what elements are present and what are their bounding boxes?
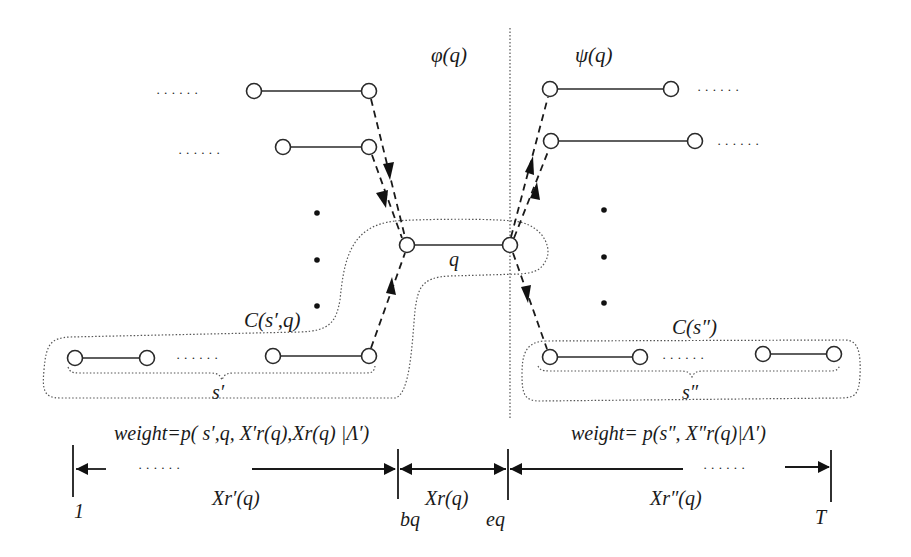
ellipsis: · · · · · · [178, 145, 220, 160]
node [68, 351, 83, 366]
right-row-2: · · · · · · [544, 134, 760, 152]
node [688, 134, 703, 149]
node [362, 140, 377, 155]
node [362, 349, 377, 364]
ellipsis: · · · · · · [138, 460, 180, 475]
tick-eq-label: eq [486, 508, 505, 531]
node [362, 84, 377, 99]
node [543, 350, 558, 365]
sprime-label: s′ [212, 381, 225, 403]
left-row-2: · · · · · · [178, 140, 377, 161]
sprime-sequence: · · · · · · s′ [68, 349, 377, 404]
xr-label: Xr(q) [424, 487, 469, 510]
node [664, 82, 679, 97]
node [827, 347, 842, 362]
node [756, 347, 771, 362]
phi-label: φ(q) [431, 43, 467, 67]
xr-doubleprime-label: Xr″(q) [649, 487, 702, 510]
c-sprime-q-label: C(s′,q) [244, 308, 301, 332]
node [543, 82, 558, 97]
weight-right-formula: weight= p(s″, X″r(q)|Λ′) [571, 422, 766, 445]
ellipsis: · · · · · · [703, 460, 745, 475]
sprime-brace [68, 366, 375, 380]
vertical-ellipsis-dot [601, 207, 607, 213]
q-end-node [503, 238, 518, 253]
vertical-ellipsis-dot [314, 303, 320, 309]
transition-arrow [371, 253, 405, 348]
ellipsis: · · · · · · [662, 350, 704, 365]
node [247, 84, 262, 99]
psi-label: ψ(q) [575, 43, 613, 67]
vertical-ellipsis-dot [314, 210, 320, 216]
q-start-node [400, 238, 415, 253]
transition-arrow [513, 253, 547, 349]
right-row-1: · · · · · · [543, 82, 740, 98]
xr-prime-label: Xr′(q) [211, 487, 260, 510]
segment-graph-diagram: φ(q) ψ(q) · · · · · · · · · · · · · · · … [0, 0, 911, 557]
q-label: q [449, 248, 459, 271]
ellipsis: · · · · · · [717, 136, 759, 151]
node [276, 140, 291, 155]
ellipsis: · · · · · · [176, 350, 218, 365]
sdoubleprime-label: s″ [682, 381, 699, 403]
ellipsis: · · · · · · [697, 82, 739, 97]
node [544, 134, 559, 149]
c-sdoubleprime-label: C(s″) [672, 315, 717, 339]
sdoubleprime-sequence: · · · · · · s″ [538, 347, 842, 404]
node [633, 350, 648, 365]
vertical-ellipsis-dot [601, 254, 607, 260]
node [266, 349, 281, 364]
node [140, 351, 155, 366]
vertical-ellipsis-dot [601, 300, 607, 306]
tick-1-label: 1 [74, 500, 84, 522]
sdoubleprime-brace [538, 365, 840, 377]
ellipsis: · · · · · · [156, 85, 198, 100]
weight-left-formula: weight=p( s′,q, X′r(q),Xr(q) |Λ′) [114, 422, 370, 445]
q-segment: q [400, 238, 518, 272]
vertical-ellipsis-dot [314, 257, 320, 263]
tick-bq-label: bq [400, 508, 420, 531]
left-row-1: · · · · · · [156, 84, 377, 101]
tick-T-label: T [815, 506, 828, 528]
